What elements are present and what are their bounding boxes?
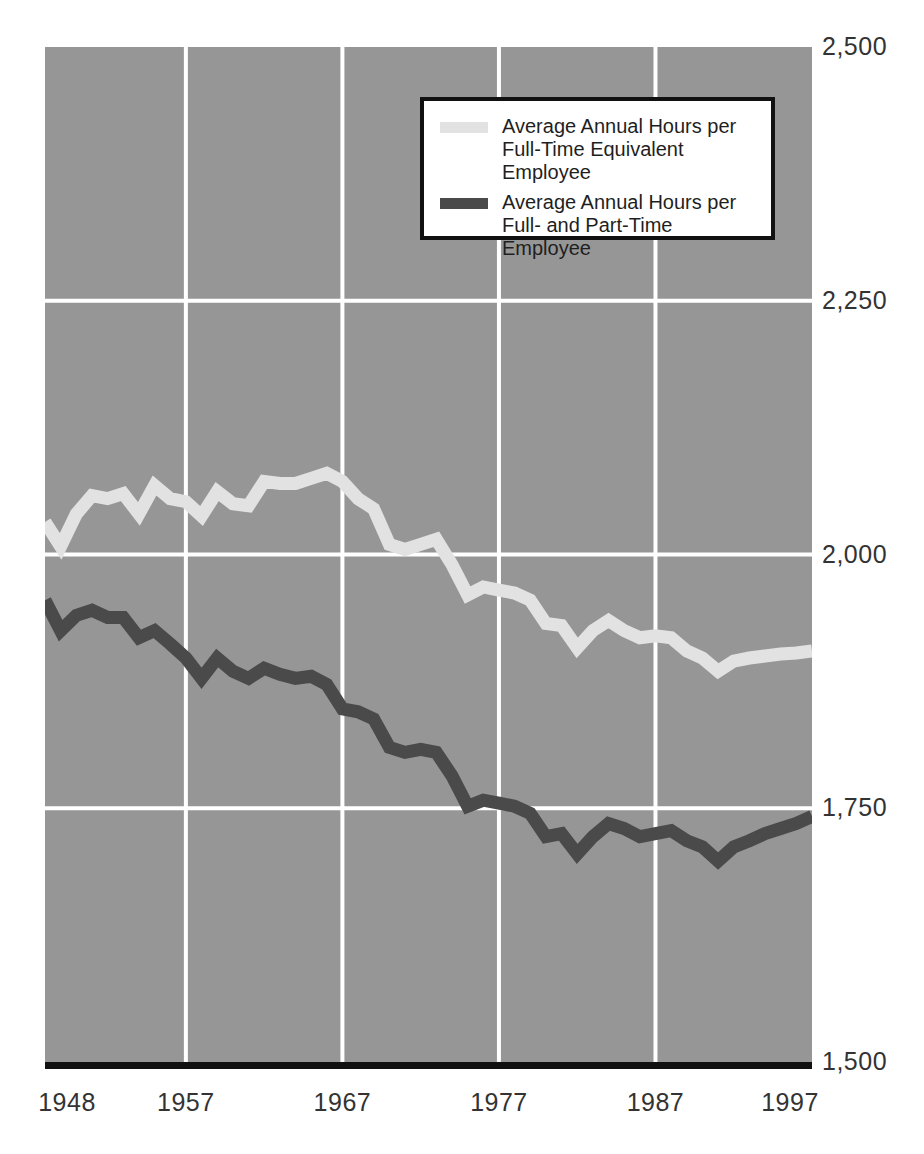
legend-entry-full-and-part-time: Average Annual Hours per Full- and Part-… [440, 191, 759, 260]
legend-swatch-dark-icon [440, 198, 488, 209]
x-tick-label: 1948 [38, 1090, 96, 1115]
x-axis-tick-labels: 194819571967197719871997 [0, 1090, 924, 1134]
x-tick-label: 1997 [761, 1090, 819, 1115]
x-tick-label: 1977 [470, 1090, 528, 1115]
series-line-1 [45, 600, 812, 861]
x-tick-label: 1967 [314, 1090, 372, 1115]
y-tick-label: 2,500 [822, 34, 887, 59]
x-tick-label: 1987 [627, 1090, 685, 1115]
x-tick-label: 1957 [157, 1090, 215, 1115]
legend-swatch-light-icon [440, 122, 488, 133]
legend: Average Annual Hours per Full-Time Equiv… [420, 97, 775, 240]
y-tick-label: 1,750 [822, 795, 887, 820]
y-tick-label: 2,000 [822, 542, 887, 567]
legend-label-full-and-part-time: Average Annual Hours per Full- and Part-… [502, 191, 759, 260]
x-axis-baseline [45, 1062, 812, 1069]
y-axis-tick-labels: 2,5002,2502,0001,7501,500 [822, 0, 924, 1154]
legend-label-full-time-equivalent: Average Annual Hours per Full-Time Equiv… [502, 115, 759, 184]
y-tick-label: 1,500 [822, 1049, 887, 1074]
legend-entry-full-time-equivalent: Average Annual Hours per Full-Time Equiv… [440, 115, 759, 184]
y-tick-label: 2,250 [822, 288, 887, 313]
chart-root: 2,5002,2502,0001,7501,500 19481957196719… [0, 0, 924, 1154]
